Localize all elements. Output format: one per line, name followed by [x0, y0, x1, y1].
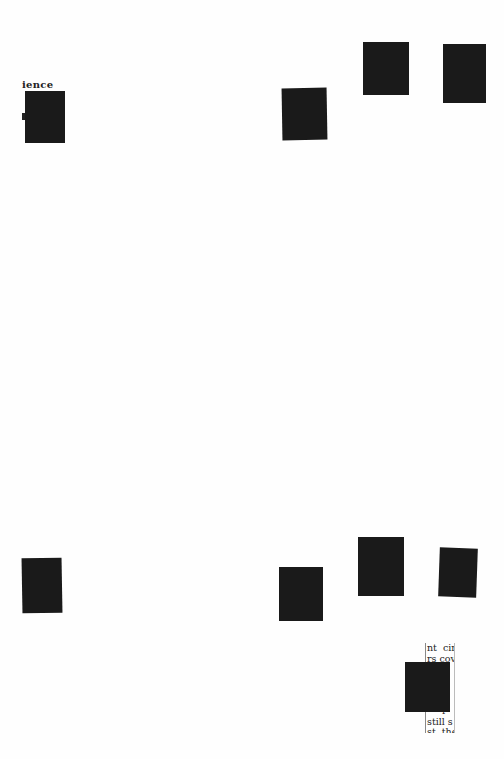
redaction-block-bottom-right-b: [438, 547, 478, 597]
redaction-block-top-mid: [282, 88, 328, 141]
text-line: st, the: [426, 727, 454, 733]
redaction-block-bottom-left: [22, 558, 63, 614]
redaction-block-top-right-b: [443, 44, 486, 103]
text-line: nt cir: [426, 643, 454, 654]
redaction-block-bottom-mid: [279, 567, 323, 621]
redaction-block-top-left: [25, 91, 65, 143]
redaction-block-top-right-a: [363, 42, 409, 95]
document-page: ience nt cir rs cov n i d r still s st, …: [0, 0, 504, 759]
text-fragment-top-left: ience: [22, 79, 53, 91]
redaction-block-bottom-right-a: [358, 537, 404, 596]
redaction-block-bottom-corner: [405, 662, 450, 712]
